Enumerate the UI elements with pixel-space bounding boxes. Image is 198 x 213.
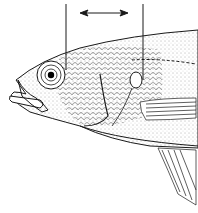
fish-head-diagram bbox=[0, 0, 198, 213]
eye bbox=[37, 61, 65, 89]
double-arrow-icon bbox=[80, 10, 128, 16]
pelvic-fin bbox=[158, 148, 196, 205]
pectoral-fin bbox=[140, 98, 196, 120]
fish-body bbox=[11, 30, 198, 148]
opercular-spot bbox=[130, 72, 142, 88]
